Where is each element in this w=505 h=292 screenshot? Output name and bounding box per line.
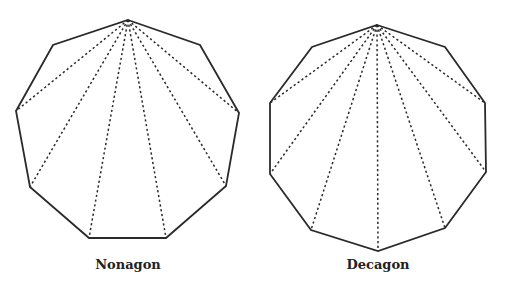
decagon-label: Decagon xyxy=(318,257,438,272)
diagonal-line xyxy=(128,20,239,113)
decagon-figure xyxy=(270,25,486,251)
nonagon-label: Nonagon xyxy=(68,257,188,272)
diagonal-line xyxy=(270,25,377,103)
diagonal-line xyxy=(311,25,377,230)
polygon-diagram xyxy=(0,0,505,292)
diagonal-line xyxy=(377,25,445,228)
diagonal-line xyxy=(377,25,485,103)
diagonal-line xyxy=(377,25,378,251)
diagonal-line xyxy=(89,20,128,238)
diagonal-line xyxy=(377,25,486,172)
diagonal-line xyxy=(270,25,377,174)
diagonal-line xyxy=(16,20,128,111)
diagonal-line xyxy=(128,20,166,238)
nonagon-figure xyxy=(16,20,239,238)
diagonal-line xyxy=(30,20,128,187)
diagonal-line xyxy=(128,20,226,186)
nonagon-outline xyxy=(16,20,239,238)
